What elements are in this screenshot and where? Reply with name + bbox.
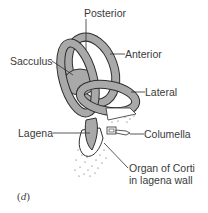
label-columella: Columella [144, 128, 191, 140]
label-posterior: Posterior [84, 7, 126, 19]
inner-ear-diagram: Posterior Anterior Sacculus Lateral Lage… [0, 0, 208, 213]
label-lagena: Lagena [18, 127, 53, 139]
leader-organ-of-corti [104, 143, 128, 168]
label-sacculus: Sacculus [10, 55, 53, 67]
label-organ-of-corti-line1: Organ of Corti [129, 162, 195, 174]
label-organ-of-corti-line2: in lagena wall [129, 174, 193, 186]
label-anterior: Anterior [125, 48, 162, 60]
panel-label: (d) [17, 190, 30, 202]
label-lateral: Lateral [145, 86, 177, 98]
